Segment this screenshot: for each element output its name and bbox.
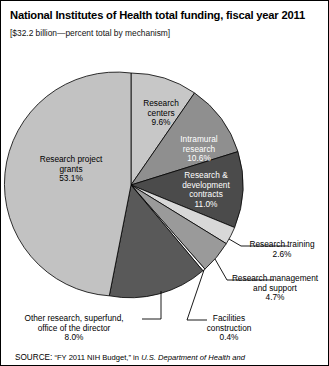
figure-subtitle: [$32.2 billion—percent total by mechanis… — [10, 28, 322, 38]
callout-label-research-training: Research training 2.6% — [237, 240, 327, 259]
callout-label-research-management: Research management and support 4.7% — [223, 274, 327, 303]
source-quoted: “FY 2011 NIH Budget,” in — [54, 353, 139, 362]
slice-label-research-centers: Research centers 9.6% — [126, 99, 196, 128]
source-prefix: SOURCE: — [15, 353, 52, 362]
callout-label-other-research: Other research, superfund, office of the… — [9, 314, 139, 343]
source-note: SOURCE: “FY 2011 NIH Budget,” in U.S. De… — [15, 353, 315, 362]
slice-label-rd-contracts: Research & development contracts 11.0% — [166, 171, 246, 209]
page-title: National Institutes of Health total fund… — [10, 9, 322, 22]
source-italic: U.S. Department of Health and — [141, 353, 245, 362]
slice-label-intramural-research: Intramural research 10.6% — [163, 135, 235, 164]
pie-slice-research-project-grants[interactable] — [4, 72, 131, 296]
figure-frame: National Institutes of Health total fund… — [0, 0, 329, 366]
pie-chart: Research centers 9.6% Intramural researc… — [1, 43, 327, 328]
slice-label-research-project-grants: Research project grants 53.1% — [23, 155, 119, 184]
callout-label-facilities-construction: Facilities construction 0.4% — [197, 314, 261, 343]
